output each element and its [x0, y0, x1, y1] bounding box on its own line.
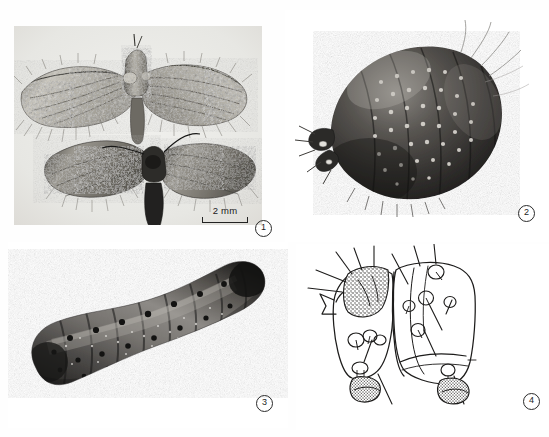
- panel-number-4: 4: [523, 393, 540, 410]
- panel-larva: 3: [8, 242, 288, 428]
- panel-number-3: 3: [256, 395, 273, 412]
- panel-4-drawing: [296, 244, 549, 430]
- panel-number-1: 1: [255, 220, 272, 237]
- larval-segment-drawing: [296, 244, 549, 430]
- figure-plate: 2 mm 1: [0, 0, 549, 437]
- adult-moth-illustration: [14, 26, 262, 225]
- panel-chaetotaxy-drawing: 4: [296, 244, 549, 430]
- panel-1-photo: [14, 26, 262, 225]
- pupa-illustration: [285, 10, 549, 242]
- panel-2-photo: [285, 10, 549, 242]
- scale-bar-rule: [202, 217, 248, 223]
- panel-3-photo: [8, 242, 288, 428]
- scale-bar: 2 mm: [199, 205, 251, 223]
- panel-number-2: 2: [518, 205, 535, 222]
- scale-bar-label: 2 mm: [199, 205, 251, 216]
- panel-adult-moth: 2 mm 1: [0, 14, 280, 242]
- panel-pupa: 2: [285, 10, 549, 242]
- larva-illustration: [8, 242, 288, 428]
